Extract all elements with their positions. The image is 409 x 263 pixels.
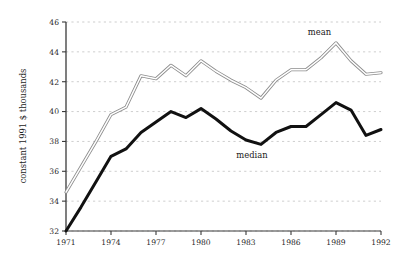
series-line-mean-outline [66, 43, 381, 192]
y-tick-label: 44 [49, 48, 59, 57]
series-line-median [66, 103, 381, 231]
series-annotation-median: median [236, 150, 268, 160]
x-tick-label: 1989 [326, 238, 345, 247]
x-tick-label: 1992 [371, 238, 390, 247]
series-annotation-mean: mean [308, 27, 332, 37]
y-tick-label: 40 [49, 107, 59, 116]
x-tick-label: 1983 [236, 238, 255, 247]
x-tick-label: 1971 [56, 238, 75, 247]
x-axis-ticks: 19711974197719801983198619891992 [56, 231, 390, 247]
y-tick-label: 38 [49, 137, 59, 146]
y-tick-label: 42 [49, 78, 59, 87]
y-tick-label: 32 [49, 227, 59, 236]
x-tick-label: 1986 [281, 238, 300, 247]
x-tick-label: 1977 [146, 238, 165, 247]
y-tick-label: 46 [49, 18, 59, 27]
series-layer [66, 43, 381, 231]
x-tick-label: 1980 [191, 238, 210, 247]
y-axis-title: constant 1991 $ thousands [18, 69, 28, 184]
y-tick-label: 34 [49, 197, 59, 206]
chart-container: 3234363840424446 19711974197719801983198… [0, 0, 409, 263]
y-axis-ticks: 3234363840424446 [49, 18, 66, 236]
series-line-mean [66, 43, 381, 192]
y-tick-label: 36 [49, 167, 59, 176]
x-tick-label: 1974 [101, 238, 120, 247]
line-chart: 3234363840424446 19711974197719801983198… [0, 0, 409, 263]
